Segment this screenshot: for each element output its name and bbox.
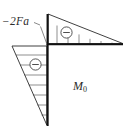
moment-subscript: 0: [83, 85, 87, 94]
upper-triangle-outline: [48, 14, 123, 44]
circled-minus-icon-lower: [30, 59, 41, 70]
moment-symbol: M: [73, 79, 83, 93]
bending-moment-figure: −2Fa M0: [0, 0, 131, 130]
minus-two-fa-label: −2Fa: [2, 16, 29, 28]
leader-line: [34, 23, 47, 44]
lower-triangle-outline: [12, 46, 47, 125]
moment-m0-label: M0: [73, 80, 87, 94]
circled-minus-icon-upper: [61, 27, 72, 38]
